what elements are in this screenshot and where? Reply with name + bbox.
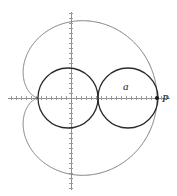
point-P-marker xyxy=(155,96,159,100)
cardioid-figure: a P xyxy=(0,0,177,196)
label-a: a xyxy=(123,80,129,92)
figure-canvas: a P xyxy=(0,0,177,196)
label-P: P xyxy=(161,92,169,104)
